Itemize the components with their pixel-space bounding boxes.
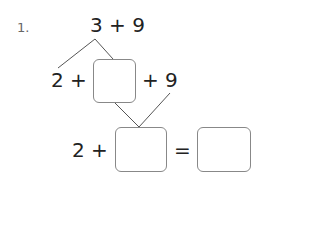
answer-box-result[interactable]: [197, 127, 251, 172]
row3-left: 2 +: [72, 140, 108, 160]
equals-sign: =: [174, 140, 191, 160]
answer-box-sum[interactable]: [115, 127, 167, 172]
row2-right: + 9: [142, 70, 178, 90]
row2-left: 2 +: [51, 70, 87, 90]
answer-box-split[interactable]: [93, 59, 136, 103]
